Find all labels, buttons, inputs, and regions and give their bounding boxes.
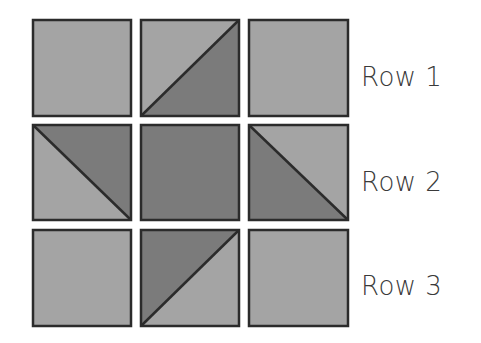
cell-r3-c3-solid-light — [249, 230, 348, 326]
row-3-label: Row 3 — [361, 271, 442, 301]
cell-r3-c2-half-square-triangle — [141, 230, 239, 326]
row-3 — [33, 230, 348, 326]
row-1-label: Row 1 — [361, 62, 442, 92]
cell-r3-c1-solid-light — [33, 230, 131, 326]
row-2 — [33, 125, 348, 220]
cell-r2-c3-half-square-triangle — [249, 125, 348, 220]
cell-r1-c1-solid-light — [33, 20, 131, 116]
cell-r2-c1-half-square-triangle — [33, 125, 131, 220]
cell-r2-c2-solid-dark — [141, 125, 239, 220]
row-2-label: Row 2 — [361, 167, 442, 197]
row-1 — [33, 20, 348, 116]
cell-r1-c3-solid-light — [249, 20, 348, 116]
cell-r1-c2-half-square-triangle — [141, 20, 239, 116]
